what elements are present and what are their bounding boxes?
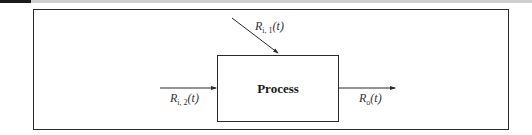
process-label: Process xyxy=(257,81,299,97)
signal-label-r-i1: Ri, 1(t) xyxy=(255,19,284,35)
process-block: Process xyxy=(217,55,339,122)
signal-label-r-o: Ro(t) xyxy=(359,91,382,107)
signal-label-r-i2: Ri, 2(t) xyxy=(170,91,199,107)
